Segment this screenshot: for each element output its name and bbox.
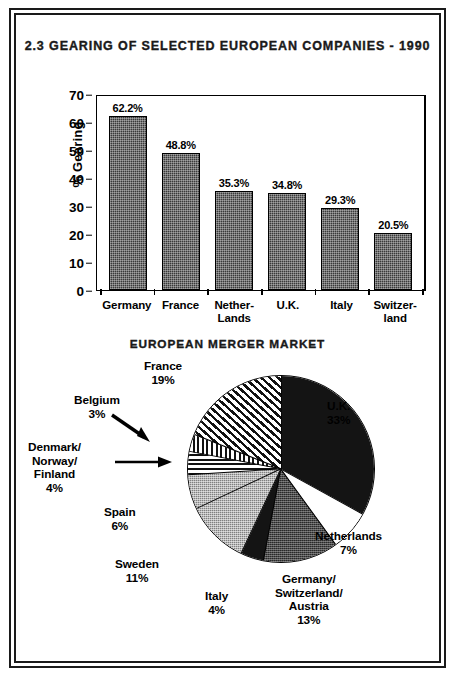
pie-slice-label: U.K. 33% [327,400,350,427]
x-tick-mark [100,289,102,295]
bar-chart-x-axis-labels: GermanyFranceNether- LandsU.K.ItalySwitz… [96,299,426,325]
y-tick-mark [86,206,92,208]
bar-rect[interactable] [321,208,359,290]
x-tick-mark [207,289,209,295]
x-tick-mark [154,289,156,295]
x-axis-category-label: France [154,299,208,325]
bar-item[interactable]: 20.5% [374,96,412,290]
y-tick-mark [86,122,92,124]
bar-value-label: 35.3% [219,177,249,189]
bar-rect[interactable] [109,116,147,290]
x-tick-mark [422,289,424,295]
y-tick-label: 40 [69,172,84,187]
x-tick-mark [261,289,263,295]
pie-slice-label: Belgium 3% [74,394,120,421]
bar-item[interactable]: 35.3% [215,96,253,290]
pie-slice-label: Germany/ Switzerland/ Austria 13% [275,573,343,627]
y-tick-label: 10 [69,256,84,271]
y-tick-label: 30 [69,200,84,215]
bar-value-label: 20.5% [378,219,408,231]
bar-chart-title: 2.3 GEARING OF SELECTED EUROPEAN COMPANI… [22,36,433,56]
bar-chart: % Gearing 010203040506070 62.2%48.8%35.3… [26,95,430,310]
y-tick-label: 60 [69,116,84,131]
y-tick-label: 70 [69,88,84,103]
x-axis-category-label: Germany [100,299,154,325]
bar-chart-y-axis-ticks: 010203040506070 [50,95,92,291]
x-axis-category-label: Switzer- land [368,299,422,325]
bar-rect[interactable] [162,153,200,290]
y-tick-mark [86,234,92,236]
pie-chart-title: EUROPEAN MERGER MARKET [22,337,433,351]
pie-slice-label: Italy 4% [205,590,228,617]
y-tick-mark [86,178,92,180]
y-tick-mark [86,290,92,292]
bar-value-label: 29.3% [325,194,355,206]
y-tick-label: 50 [69,144,84,159]
bar-rect[interactable] [215,191,253,290]
bar-value-label: 48.8% [166,139,196,151]
bar-value-label: 62.2% [112,102,142,114]
x-tick-mark [368,289,370,295]
pie-chart: U.K. 33%Netherlands 7%Germany/ Switzerla… [22,358,433,656]
x-tick-mark [315,289,317,295]
pie-slice-label: Netherlands 7% [315,530,382,557]
x-axis-category-label: U.K. [261,299,315,325]
y-tick-label: 20 [69,228,84,243]
bar-value-label: 34.8% [272,179,302,191]
bar-item[interactable]: 62.2% [109,96,147,290]
denmark-callout-arrow [114,455,176,469]
y-tick-mark [86,262,92,264]
pie-slice-label: Spain 6% [104,506,136,533]
x-axis-category-label: Nether- Lands [207,299,261,325]
bar-chart-plot-area: 62.2%48.8%35.3%34.8%29.3%20.5% [96,95,426,291]
x-axis-category-label: Italy [315,299,369,325]
bar-rect[interactable] [268,193,306,290]
pie-slice-label: Sweden 11% [115,558,159,585]
y-tick-mark [86,150,92,152]
y-tick-label: 0 [76,284,84,299]
pie-slice-label: France 19% [144,360,182,387]
bar-item[interactable]: 48.8% [162,96,200,290]
bar-item[interactable]: 34.8% [268,96,306,290]
bar-chart-x-axis-ticks [96,289,426,295]
bar-rect[interactable] [374,233,412,290]
figure-page: 2.3 GEARING OF SELECTED EUROPEAN COMPANI… [0,0,455,677]
bar-item[interactable]: 29.3% [321,96,359,290]
pie-slice-label: Denmark/ Norway/ Finland 4% [28,441,81,495]
y-tick-mark [86,94,92,96]
bar-series: 62.2%48.8%35.3%34.8%29.3%20.5% [97,96,424,290]
